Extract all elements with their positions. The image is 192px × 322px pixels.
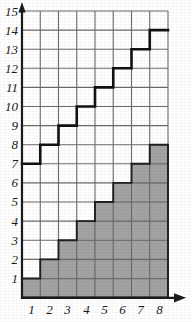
shaded-cell <box>59 241 77 260</box>
y-axis-tick-label: 9 <box>4 119 18 132</box>
y-axis-tick-label: 6 <box>4 176 18 189</box>
shaded-cell <box>132 241 150 260</box>
shaded-cell <box>113 260 131 279</box>
shaded-cell <box>132 203 150 222</box>
y-axis-tick-label: 1 <box>4 272 18 285</box>
y-axis-tick-label: 3 <box>4 234 18 247</box>
staircase-grid-figure: 15 14 13 12 11 10 9 8 7 6 5 4 3 2 1 1 2 … <box>0 0 192 322</box>
shaded-cell <box>113 203 131 222</box>
shaded-cell <box>150 222 168 241</box>
y-axis-tick-label: 11 <box>1 81 18 94</box>
shaded-cell <box>150 203 168 222</box>
shaded-cell <box>59 279 77 298</box>
shaded-cell <box>77 260 95 279</box>
shaded-cell <box>77 279 95 298</box>
shaded-cell <box>132 279 150 298</box>
shaded-cell <box>95 260 113 279</box>
shaded-cell <box>132 184 150 203</box>
shaded-cell <box>132 164 150 183</box>
y-axis-tick-label: 13 <box>1 43 18 56</box>
plot-area <box>0 0 192 322</box>
y-axis-tick-label: 15 <box>1 5 18 18</box>
shaded-cell <box>95 203 113 222</box>
shaded-cell <box>132 222 150 241</box>
y-axis-tick-label: 5 <box>4 195 18 208</box>
shaded-cell <box>113 184 131 203</box>
shaded-cell <box>150 279 168 298</box>
shaded-cell <box>59 260 77 279</box>
x-axis-tick-label: 6 <box>114 303 131 316</box>
x-axis-tick-label: 8 <box>151 303 168 316</box>
shaded-cell <box>150 184 168 203</box>
x-axis-tick-label: 3 <box>59 303 76 316</box>
shaded-cell <box>40 279 58 298</box>
shaded-cell <box>95 222 113 241</box>
shaded-cell <box>95 279 113 298</box>
shaded-cell <box>77 241 95 260</box>
up-arrow-icon <box>18 2 25 13</box>
shaded-cell <box>132 260 150 279</box>
right-arrow-icon <box>174 293 186 302</box>
shaded-cell <box>113 222 131 241</box>
shaded-cell <box>113 279 131 298</box>
x-axis-tick-label: 4 <box>78 303 95 316</box>
shaded-cell <box>77 222 95 241</box>
y-axis-tick-label: 10 <box>1 100 18 113</box>
y-axis-tick-label: 12 <box>1 62 18 75</box>
shaded-cell <box>113 241 131 260</box>
y-axis-tick-label: 4 <box>4 215 18 228</box>
shaded-cell <box>22 279 40 298</box>
x-axis-tick-label: 2 <box>41 303 58 316</box>
y-axis-tick-label: 14 <box>1 24 18 37</box>
x-axis-tick-label: 5 <box>96 303 113 316</box>
shaded-cell <box>150 145 168 164</box>
x-axis-tick-label: 1 <box>23 303 40 316</box>
x-axis-tick-label: 7 <box>132 303 149 316</box>
y-axis-tick-label: 2 <box>4 253 18 266</box>
y-axis-tick-label: 7 <box>4 157 18 170</box>
shaded-cell <box>95 241 113 260</box>
shaded-cell <box>40 260 58 279</box>
shaded-cell <box>150 260 168 279</box>
shaded-cell <box>150 241 168 260</box>
y-axis-tick-label: 8 <box>4 138 18 151</box>
shaded-cell <box>150 164 168 183</box>
